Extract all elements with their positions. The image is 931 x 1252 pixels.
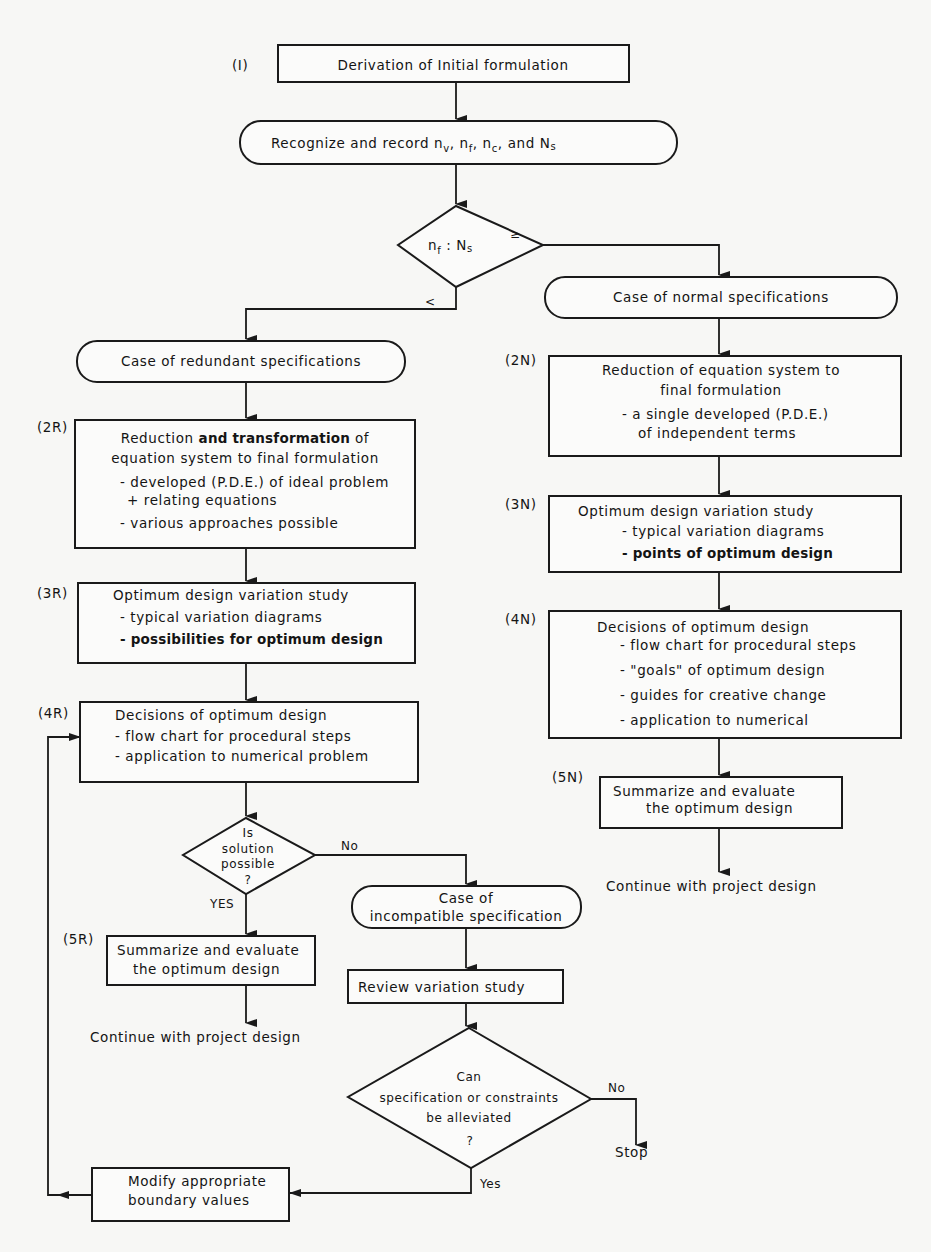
arrow-d3-no [591,1099,636,1145]
text-3r-l1: Optimum design variation study [113,587,349,603]
text-3n-l1: Optimum design variation study [578,503,814,519]
node-modify: Modify appropriate boundary values [92,1168,289,1221]
redundant-case-text: Case of redundant specifications [121,353,361,369]
text-4r-l1: Decisions of optimum design [115,707,327,723]
node-3r: (3R) Optimum design variation study - ty… [37,583,415,663]
text-4r-l3: - application to numerical problem [115,748,369,764]
d3-yes-label: Yes [479,1177,501,1191]
node-redundant-case: Case of redundant specifications [77,341,405,382]
d3-no-label: No [608,1081,626,1095]
node-derivation: (I) Derivation of Initial formulation [232,45,629,82]
d2-text-l2: solution [222,842,274,856]
branch-ge-label: ≥ [510,227,521,241]
text-4n-l5: - application to numerical [620,712,809,728]
d2-no-label: No [341,839,359,853]
step-label-2r: (2R) [37,419,68,435]
text-4n-l2: - flow chart for procedural steps [620,637,856,653]
normal-case-text: Case of normal specifications [613,289,829,305]
d3-text-l1: Can [456,1070,481,1084]
continue-redundant-text: Continue with project design [90,1029,301,1045]
node-4n: (4N) Decisions of optimum design - flow … [505,611,901,738]
node-5r: (5R) Summarize and evaluate the optimum … [63,931,315,985]
decision-solution-possible: Is solution possible ? YES No [183,818,359,911]
node-review: Review variation study [348,970,563,1003]
step-label-4r: (4R) [38,705,69,721]
text-3n-l2: - typical variation diagrams [622,523,824,539]
text-2n-l2: final formulation [660,382,782,398]
d2-text-l1: Is [243,826,254,840]
text-5r-l1: Summarize and evaluate [117,942,299,958]
flowchart: (I) Derivation of Initial formulation Re… [0,0,931,1252]
text-5n-l2: the optimum design [646,800,793,816]
derivation-text: Derivation of Initial formulation [337,57,568,73]
review-text: Review variation study [358,979,525,995]
arrow-loop-back-to-4r [48,737,92,1195]
d2-text-l3: possible [221,857,275,871]
text-2r-l5: - various approaches possible [120,515,338,531]
d2-text-l4: ? [245,873,252,887]
text-3r-l2: - typical variation diagrams [120,609,322,625]
node-normal-case: Case of normal specifications [545,277,897,318]
step-label-3n: (3N) [505,496,537,512]
node-2n: (2N) Reduction of equation system to fin… [505,352,901,456]
text-5n-l1: Summarize and evaluate [613,783,795,799]
continue-normal-text: Continue with project design [606,878,817,894]
step-label-5r: (5R) [63,931,94,947]
node-incompatible-case: Case of incompatible specification [352,886,581,928]
step-label-3r: (3R) [37,585,68,601]
arrow-d2-no [315,855,466,884]
stop-text: Stop [615,1144,648,1160]
text-4n-l4: - guides for creative change [620,687,826,703]
text-2n-l1: Reduction of equation system to [602,362,840,378]
node-3n: (3N) Optimum design variation study - ty… [505,496,901,572]
text-2r-l3: - developed (P.D.E.) of ideal problem [120,474,389,490]
text-2r-l1: Reduction and transformation of [121,430,370,446]
d3-text-l3: be alleviated [426,1111,512,1125]
text-4n-l1: Decisions of optimum design [597,619,809,635]
decision-alleviate: Can specification or constraints be alle… [348,1028,626,1191]
step-label-2n: (2N) [505,352,537,368]
branch-lt-label: < [425,295,436,309]
arrow-d3-yes [290,1168,471,1193]
text-2n-l4: of independent terms [638,425,796,441]
text-2r-l2: equation system to final formulation [111,450,379,466]
d2-yes-label: YES [209,897,234,911]
step-label-4n: (4N) [505,611,537,627]
incompat-text-l1: Case of [439,890,494,906]
node-5n: (5N) Summarize and evaluate the optimum … [552,769,842,828]
decision-nf-ns: nf : Ns ≥ < [398,206,543,309]
text-5r-l2: the optimum design [133,961,280,977]
arrow-d1-ge [543,245,719,275]
d3-text-l4: ? [467,1134,474,1148]
step-label-5n: (5N) [552,769,584,785]
modify-text-l1: Modify appropriate [128,1173,267,1189]
text-4r-l2: - flow chart for procedural steps [115,728,351,744]
text-3r-l3: - possibilities for optimum design [120,631,383,647]
text-4n-l3: - "goals" of optimum design [620,662,825,678]
incompat-text-l2: incompatible specification [370,908,563,924]
d3-text-l2: specification or constraints [379,1091,558,1105]
text-2n-l3: - a single developed (P.D.E.) [622,406,829,422]
text-3n-l3: - points of optimum design [622,545,833,561]
node-record: Recognize and record nv, nf, nc, and Ns [240,121,677,164]
modify-text-l2: boundary values [128,1192,250,1208]
node-2r: (2R) Reduction and transformation of equ… [37,419,415,548]
node-4r: (4R) Decisions of optimum design - flow … [38,702,418,782]
step-label-1: (I) [232,57,248,73]
text-2r-l4: + relating equations [127,492,277,508]
